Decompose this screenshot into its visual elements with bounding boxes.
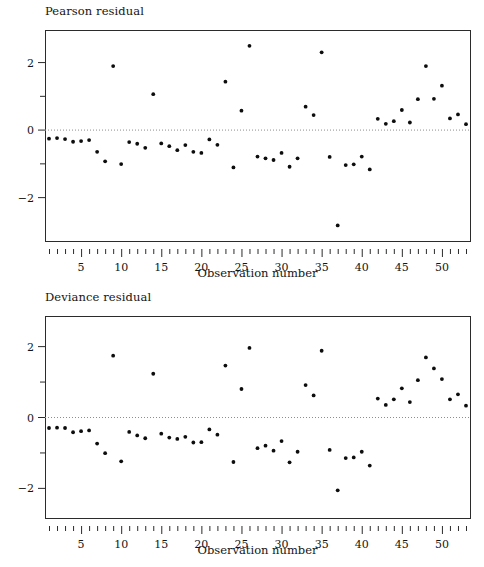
data-point bbox=[95, 442, 99, 446]
data-point bbox=[296, 450, 300, 454]
data-point bbox=[448, 117, 452, 121]
data-point bbox=[47, 426, 51, 430]
data-point bbox=[224, 80, 228, 84]
data-point bbox=[207, 428, 211, 432]
data-point bbox=[280, 151, 284, 155]
x-tick-label: 10 bbox=[114, 538, 128, 551]
data-point bbox=[320, 349, 324, 353]
data-point bbox=[336, 488, 340, 492]
data-point bbox=[216, 143, 220, 147]
x-tick-label: 10 bbox=[114, 261, 128, 274]
data-point bbox=[344, 456, 348, 460]
data-point bbox=[216, 433, 220, 437]
data-point bbox=[71, 140, 75, 144]
x-tick-label: 40 bbox=[355, 538, 369, 551]
data-point bbox=[280, 439, 284, 443]
data-point bbox=[360, 450, 364, 454]
data-point bbox=[424, 64, 428, 68]
data-point bbox=[288, 460, 292, 464]
plot-frame bbox=[46, 31, 471, 242]
data-point bbox=[392, 119, 396, 123]
data-point bbox=[464, 122, 468, 126]
pearson-scatter-plot: −2025101520253035404550Observation numbe… bbox=[0, 0, 484, 290]
data-point bbox=[336, 224, 340, 228]
data-point bbox=[119, 459, 123, 463]
x-axis-label: Observation number bbox=[197, 543, 318, 557]
data-point bbox=[344, 163, 348, 167]
data-point bbox=[159, 432, 163, 436]
data-point bbox=[199, 440, 203, 444]
data-point bbox=[224, 364, 228, 368]
data-point bbox=[111, 64, 115, 68]
y-tick-label: 2 bbox=[27, 57, 34, 70]
x-axis-label: Observation number bbox=[197, 266, 318, 280]
data-point bbox=[272, 158, 276, 162]
data-point bbox=[175, 148, 179, 152]
data-point bbox=[432, 97, 436, 101]
data-point-group bbox=[47, 346, 468, 492]
deviance-scatter-plot: −2025101520253035404550Observation numbe… bbox=[0, 288, 484, 567]
data-point bbox=[151, 92, 155, 96]
data-point bbox=[175, 437, 179, 441]
data-point bbox=[400, 108, 404, 112]
data-point-group bbox=[47, 44, 468, 227]
data-point bbox=[376, 397, 380, 401]
x-tick-label: 5 bbox=[78, 538, 85, 551]
x-tick-label: 45 bbox=[395, 261, 409, 274]
data-point bbox=[55, 426, 59, 430]
data-point bbox=[240, 387, 244, 391]
data-point bbox=[264, 444, 268, 448]
data-point bbox=[384, 122, 388, 126]
data-point bbox=[151, 372, 155, 376]
data-point bbox=[256, 155, 260, 159]
data-point bbox=[143, 146, 147, 150]
data-point bbox=[384, 403, 388, 407]
data-point bbox=[464, 404, 468, 408]
data-point bbox=[392, 397, 396, 401]
data-point bbox=[79, 139, 83, 143]
data-point bbox=[288, 165, 292, 169]
data-point bbox=[232, 166, 236, 170]
data-point bbox=[320, 50, 324, 54]
data-point bbox=[312, 113, 316, 117]
data-point bbox=[432, 367, 436, 371]
data-point bbox=[296, 156, 300, 160]
data-point bbox=[456, 392, 460, 396]
x-tick-label: 45 bbox=[395, 538, 409, 551]
data-point bbox=[424, 356, 428, 360]
data-point bbox=[264, 156, 268, 160]
data-point bbox=[408, 400, 412, 404]
data-point bbox=[63, 426, 67, 430]
data-point bbox=[376, 117, 380, 121]
data-point bbox=[119, 162, 123, 166]
x-tick-label: 50 bbox=[435, 538, 449, 551]
data-point bbox=[87, 138, 91, 142]
data-point bbox=[159, 142, 163, 146]
data-point bbox=[103, 451, 107, 455]
data-point bbox=[127, 140, 131, 144]
data-point bbox=[448, 397, 452, 401]
data-point bbox=[328, 448, 332, 452]
panel-pearson-residual: Pearson residual −2025101520253035404550… bbox=[0, 0, 484, 290]
data-point bbox=[191, 150, 195, 154]
y-tick-label: 0 bbox=[27, 124, 34, 137]
x-tick-label: 15 bbox=[154, 538, 168, 551]
data-point bbox=[368, 464, 372, 468]
data-point bbox=[232, 460, 236, 464]
data-point bbox=[79, 429, 83, 433]
data-point bbox=[304, 105, 308, 109]
data-point bbox=[416, 97, 420, 101]
data-point bbox=[63, 137, 67, 141]
data-point bbox=[240, 109, 244, 113]
data-point bbox=[304, 383, 308, 387]
residual-plots-figure: Pearson residual −2025101520253035404550… bbox=[0, 0, 484, 567]
y-tick-label: 0 bbox=[27, 412, 34, 425]
data-point bbox=[103, 159, 107, 163]
data-point bbox=[135, 434, 139, 438]
x-tick-label: 15 bbox=[154, 261, 168, 274]
y-tick-label: −2 bbox=[18, 482, 34, 495]
data-point bbox=[167, 436, 171, 440]
data-point bbox=[248, 44, 252, 48]
data-point bbox=[328, 155, 332, 159]
data-point bbox=[135, 142, 139, 146]
